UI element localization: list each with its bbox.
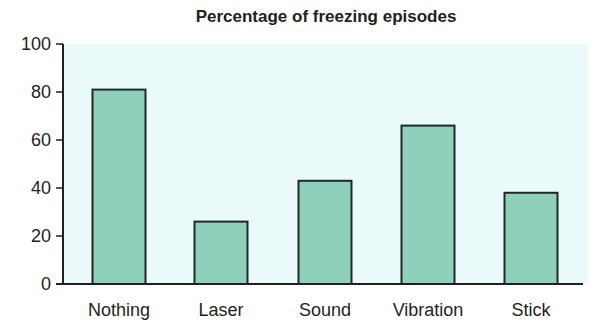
bar-chart: 020406080100 NothingLaserSoundVibrationS… xyxy=(0,0,603,336)
x-tick-label: Sound xyxy=(299,300,351,320)
bar-vibration xyxy=(402,126,455,284)
y-tick-label: 0 xyxy=(41,274,51,294)
x-axis: NothingLaserSoundVibrationStick xyxy=(56,284,583,320)
y-axis: 020406080100 xyxy=(21,34,63,294)
x-tick-label: Stick xyxy=(511,300,551,320)
bar-laser xyxy=(195,222,248,284)
y-tick-label: 60 xyxy=(31,130,51,150)
bar-stick xyxy=(505,193,558,284)
y-tick-label: 20 xyxy=(31,226,51,246)
y-tick-label: 40 xyxy=(31,178,51,198)
bar-sound xyxy=(299,181,352,284)
y-tick-label: 100 xyxy=(21,34,51,54)
x-tick-label: Vibration xyxy=(393,300,464,320)
bar-nothing xyxy=(93,90,146,284)
y-tick-label: 80 xyxy=(31,82,51,102)
x-tick-label: Nothing xyxy=(88,300,150,320)
x-tick-label: Laser xyxy=(198,300,243,320)
